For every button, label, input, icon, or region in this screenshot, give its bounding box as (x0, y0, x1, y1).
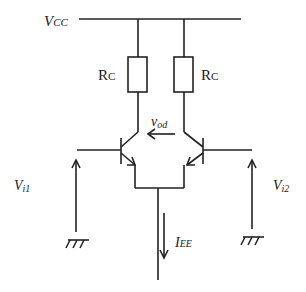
vi1-label: Vi1 (14, 178, 30, 194)
resistor-left (128, 57, 147, 92)
left-collector-branch: RC (98, 19, 147, 132)
rc-left-label: RC (98, 67, 115, 83)
right-collector-branch: RC (174, 19, 218, 132)
tail-current-source: IEE (135, 188, 192, 280)
transistor-q2 (184, 132, 252, 188)
input-vi1: Vi1 (14, 160, 89, 248)
vi2-label: Vi2 (273, 178, 289, 194)
transistor-q1 (77, 132, 138, 188)
vod-arrow: vod (148, 114, 175, 139)
differential-amplifier-diagram: VCC RC RC vod (0, 0, 306, 292)
input-vi2: Vi2 (241, 160, 289, 245)
ground-left-icon (66, 240, 89, 248)
ground-right-icon (241, 237, 264, 245)
iee-label: IEE (174, 235, 192, 250)
vcc-label: VCC (44, 13, 69, 29)
vcc-rail: VCC (44, 13, 241, 29)
vod-label: vod (151, 114, 168, 130)
resistor-right (174, 57, 193, 92)
rc-right-label: RC (201, 67, 218, 83)
